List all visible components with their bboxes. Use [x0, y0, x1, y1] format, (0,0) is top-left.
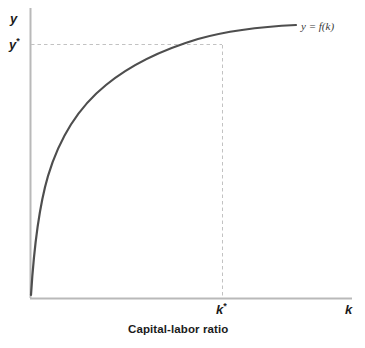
y-star-tick-label: y* — [9, 38, 20, 51]
production-function-curve — [31, 25, 296, 295]
y-axis-variable-label: y — [10, 12, 17, 25]
chart-canvas — [0, 0, 365, 348]
k-star-superscript: * — [223, 301, 227, 311]
production-function-chart: y y* k* k y = f(k) Capital-labor ratio — [0, 0, 365, 348]
k-star-tick-label: k* — [216, 303, 227, 316]
x-axis-title: Capital-labor ratio — [128, 324, 228, 336]
x-axis-variable-label: k — [345, 303, 352, 316]
y-star-superscript: * — [16, 36, 20, 46]
curve-equation-label: y = f(k) — [301, 21, 334, 32]
